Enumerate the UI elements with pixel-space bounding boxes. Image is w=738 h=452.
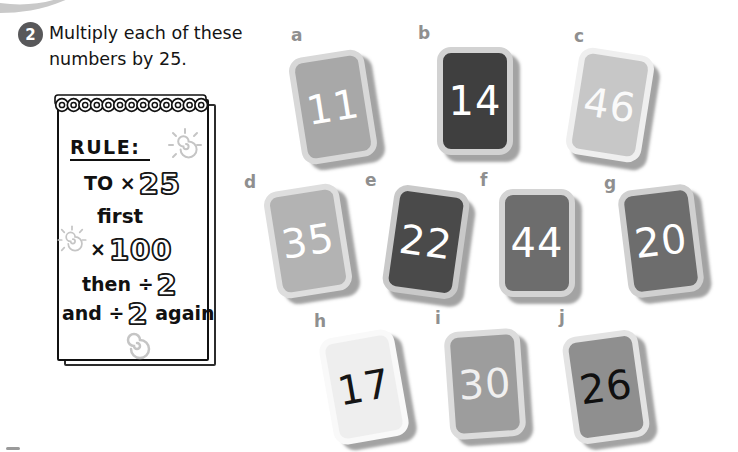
rule-line-2: first [97, 206, 143, 226]
card-value: 14 [449, 78, 502, 124]
card-label-j: j [559, 307, 565, 327]
card-value: 22 [397, 216, 456, 269]
card-label-c: c [574, 26, 584, 46]
rule-line-1: TO ×25 [84, 170, 181, 199]
page-corner-swoosh-icon [0, 0, 90, 22]
rule-line-3: ×100 [90, 236, 172, 265]
rule-line-4-number: 2 [157, 268, 178, 302]
sun-doodle-icon [164, 124, 206, 166]
spiral-binding-icon [53, 89, 209, 119]
worksheet-page: 2 Multiply each of these numbers by 25. [0, 0, 738, 452]
card-f: 44 [499, 189, 575, 297]
question-number: 2 [25, 26, 35, 44]
rule-line-4: then ÷2 [82, 271, 178, 300]
spiral-doodle-icon [120, 328, 152, 360]
card-value: 35 [278, 214, 337, 268]
card-label-g: g [604, 173, 616, 193]
card-b: 14 [437, 47, 513, 155]
card-label-b: b [418, 23, 430, 43]
card-h: 17 [317, 327, 411, 447]
rule-line-5: and ÷2 again [62, 300, 215, 329]
card-value: 30 [457, 359, 513, 409]
card-e: 22 [381, 183, 471, 301]
card-j: 26 [561, 328, 651, 446]
question-number-badge: 2 [18, 22, 43, 47]
rule-line-1-number: 25 [139, 167, 181, 201]
card-label-d: d [244, 172, 256, 192]
sun-doodle-icon [54, 222, 90, 258]
rule-heading: RULE: [70, 136, 150, 161]
rule-line-5-tail: again [155, 302, 214, 324]
card-label-a: a [291, 25, 302, 45]
card-value: 20 [632, 215, 690, 267]
card-label-e: e [365, 170, 377, 190]
card-i: 30 [443, 327, 526, 440]
rule-line-5-text: and ÷ [62, 302, 124, 324]
card-c: 46 [564, 46, 656, 165]
card-label-h: h [314, 311, 326, 331]
card-a: 11 [287, 48, 379, 167]
card-g: 20 [617, 183, 706, 299]
card-value: 11 [303, 80, 362, 134]
instruction-line-2: numbers by 25. [49, 46, 242, 72]
card-d: 35 [262, 182, 354, 301]
card-value: 17 [334, 360, 394, 414]
rule-line-3-number: 100 [109, 233, 173, 267]
card-label-i: i [435, 308, 441, 328]
card-label-f: f [480, 170, 487, 190]
rule-line-4-text: then ÷ [82, 273, 154, 295]
instruction-line-1: Multiply each of these [49, 20, 242, 46]
card-value: 44 [511, 220, 564, 266]
card-value: 46 [580, 78, 639, 132]
card-value: 26 [577, 361, 636, 414]
page-edge-mark [6, 447, 20, 450]
rule-line-1-text: TO × [84, 172, 136, 194]
rule-line-3-text: × [90, 238, 106, 260]
rule-line-5-number: 2 [127, 297, 148, 331]
instruction-text: Multiply each of these numbers by 25. [49, 20, 242, 72]
